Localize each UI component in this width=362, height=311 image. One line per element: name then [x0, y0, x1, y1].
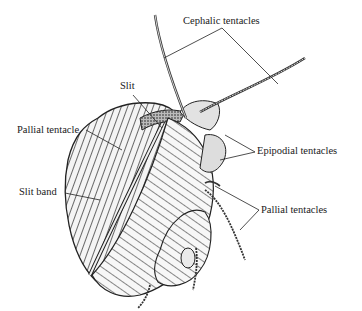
label-pallial-tentacles: Pallial tentacles — [261, 205, 327, 216]
label-slit: Slit — [120, 81, 135, 92]
label-slit-band: Slit band — [19, 187, 57, 198]
label-pallial-tentacle: Pallial tentacle — [17, 125, 79, 136]
shell — [65, 103, 213, 296]
anatomy-figure: Cephalic tentacles Slit Pallial tentacle… — [0, 0, 362, 311]
label-cephalic-tentacles: Cephalic tentacles — [183, 16, 260, 27]
label-epipodial-tentacles: Epipodial tentacles — [257, 146, 337, 157]
cephalic-tentacles — [155, 15, 305, 118]
